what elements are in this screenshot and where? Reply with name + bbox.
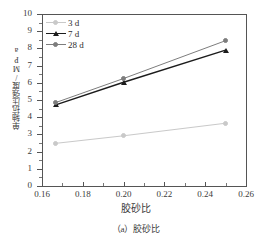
legend-item-28d[interactable]: 28 d [46,39,110,50]
legend-swatch-3d [46,17,66,28]
data-point-7d-2 [223,48,229,53]
legend-label-28d: 28 d [66,40,84,50]
data-point-3d-0 [53,141,58,146]
series-line-7d [56,50,226,105]
legend-marker-7d [53,31,59,36]
data-point-3d-2 [223,121,228,126]
x-axis-title: 胶砂比 [0,203,272,214]
figure-caption: （a）胶砂比 [0,224,272,234]
legend-item-3d[interactable]: 3 d [46,17,110,28]
legend-label-7d: 7 d [66,29,79,39]
legend-swatch-28d [46,39,66,50]
chart-legend: 3 d 7 d 28 d [46,17,110,50]
legend-swatch-7d [46,28,66,39]
legend-label-3d: 3 d [66,18,79,28]
legend-marker-28d [53,42,58,47]
figure-container: 012345678910 0.160.180.200.220.240.26 3 … [0,0,272,248]
series-line-3d [56,123,226,143]
legend-marker-3d [53,20,58,25]
legend-item-7d[interactable]: 7 d [46,28,110,39]
y-axis-title: 单轴抗压强度/MPa [12,46,26,130]
